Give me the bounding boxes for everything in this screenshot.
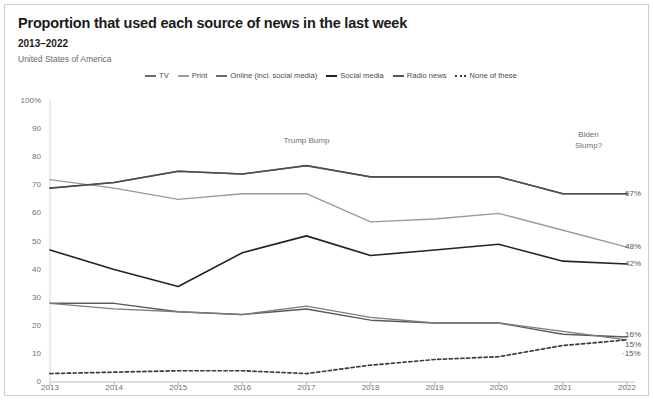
- page-title: Proportion that used each source of news…: [18, 15, 407, 31]
- legend-swatch-icon: [178, 75, 189, 77]
- y-axis-tick-label: 0: [7, 377, 41, 386]
- legend-label: TV: [159, 71, 169, 80]
- legend-label: Online (incl. social media): [230, 71, 317, 80]
- chart-annotation: Trump Bump: [261, 135, 351, 146]
- legend-label: Social media: [340, 71, 383, 80]
- y-axis-tick-label: 40: [7, 265, 41, 274]
- series-end-label: ·15%: [622, 349, 641, 358]
- y-axis-tick-label: 60: [7, 208, 41, 217]
- legend-item[interactable]: Social media: [326, 71, 383, 80]
- x-axis-tick-label: 2015: [158, 383, 198, 392]
- legend-label: Print: [192, 71, 208, 80]
- series-end-label: 15%: [625, 340, 641, 349]
- legend-label: Radio news: [407, 71, 447, 80]
- legend-label: None of these: [469, 71, 516, 80]
- x-axis-tick-label: 2019: [415, 383, 455, 392]
- x-axis-tick-label: 2014: [94, 383, 134, 392]
- series-line-radio-news-2: [50, 303, 627, 340]
- chart-region-label: United States of America: [18, 54, 112, 64]
- chart-subtitle: 2013–2022: [18, 38, 68, 49]
- y-axis-tick-label: 70: [7, 180, 41, 189]
- series-line-social-media: [50, 236, 627, 287]
- x-axis-tick-label: 2013: [30, 383, 70, 392]
- series-line-print: [50, 180, 627, 247]
- x-axis-tick-label: 2022: [607, 383, 647, 392]
- x-axis-tick-label: 2016: [222, 383, 262, 392]
- legend-item[interactable]: None of these: [455, 71, 516, 80]
- legend-item[interactable]: Online (incl. social media): [216, 71, 317, 80]
- series-end-label: 67%: [625, 189, 641, 198]
- series-end-label: 48%: [625, 242, 641, 251]
- x-axis-tick-label: 2018: [351, 383, 391, 392]
- legend-item[interactable]: Radio news: [393, 71, 447, 80]
- series-line-radio-news: [50, 303, 627, 337]
- legend-swatch-icon: [455, 75, 466, 77]
- y-axis-tick-label: 80: [7, 152, 41, 161]
- series-line-tv: [50, 166, 627, 194]
- series-end-label: 42%: [625, 259, 641, 268]
- y-axis-tick-label: 90: [7, 124, 41, 133]
- legend-swatch-icon: [145, 75, 156, 77]
- chart-card: Proportion that used each source of news…: [4, 4, 649, 396]
- legend-item[interactable]: TV: [145, 71, 169, 80]
- x-axis-tick-label: 2021: [543, 383, 583, 392]
- x-axis-tick-label: 2017: [286, 383, 326, 392]
- y-axis-tick-label: 100%: [7, 96, 41, 105]
- chart-legend: TVPrintOnline (incl. social media)Social…: [145, 71, 517, 80]
- y-axis-tick-label: 30: [7, 293, 41, 302]
- series-line-none-of-these: [50, 340, 627, 374]
- x-axis-tick-label: 2020: [479, 383, 519, 392]
- y-axis-tick-label: 10: [7, 349, 41, 358]
- legend-swatch-icon: [216, 75, 227, 77]
- chart-annotation: BidenSlump?: [544, 129, 634, 151]
- legend-swatch-icon: [393, 75, 404, 77]
- series-end-label: 16%: [625, 330, 641, 339]
- y-axis-tick-label: 50: [7, 237, 41, 246]
- legend-swatch-icon: [326, 75, 337, 77]
- y-axis-tick-label: 20: [7, 321, 41, 330]
- series-line-online-incl-social-media: [50, 166, 627, 194]
- legend-item[interactable]: Print: [178, 71, 208, 80]
